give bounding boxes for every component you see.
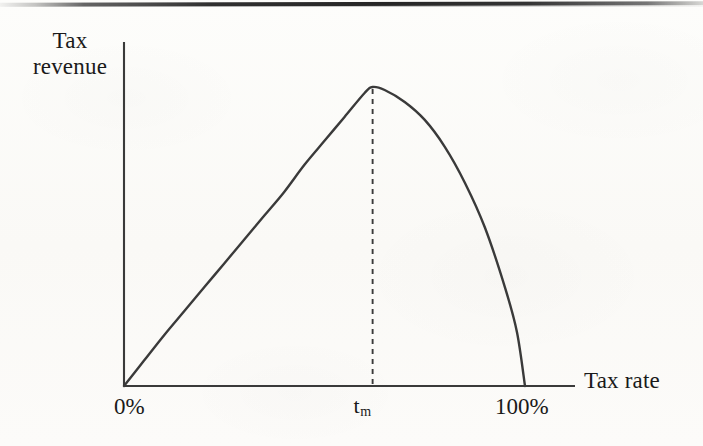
x-tick-label-hundred: 100%	[495, 394, 549, 420]
tm-subscript: m	[360, 404, 371, 419]
y-axis-label-line1: Tax	[53, 28, 88, 53]
y-axis-label: Taxrevenue	[22, 28, 118, 80]
x-tick-label-tm: tm	[354, 394, 371, 419]
y-axis-label-line2: revenue	[33, 54, 107, 79]
x-tick-label-zero: 0%	[114, 394, 145, 420]
tm-base: t	[354, 393, 360, 418]
laffer-curve-figure: Taxrevenue Tax rate 0% tm 100%	[0, 0, 703, 446]
x-axis-label: Tax rate	[584, 368, 660, 394]
laffer-curve-path	[124, 87, 525, 386]
